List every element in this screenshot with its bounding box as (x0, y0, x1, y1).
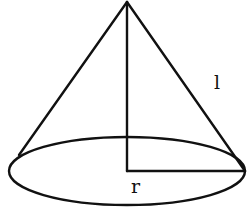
cone-right-slant-edge (127, 2, 245, 171)
cone-left-slant-edge (19, 2, 127, 155)
cone-diagram: l r (0, 0, 248, 213)
slant-height-label: l (214, 71, 220, 93)
radius-label: r (131, 175, 141, 197)
